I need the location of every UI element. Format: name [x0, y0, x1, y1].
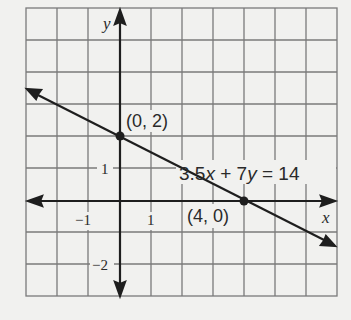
- y-tick-neg2: −2: [92, 257, 108, 273]
- y-axis-up-arrow-icon: [115, 10, 125, 24]
- y-axis-label: y: [101, 14, 111, 33]
- point-label-0-2: (0, 2): [126, 111, 168, 131]
- graph-canvas: y x 1 −1 1 −2 (0, 2) (4, 0) 3.5x + 7y = …: [0, 0, 351, 320]
- coordinate-graph: y x 1 −1 1 −2 (0, 2) (4, 0) 3.5x + 7y = …: [0, 0, 351, 320]
- y-axis-down-arrow-icon: [115, 282, 125, 296]
- x-axis-left-arrow-icon: [28, 196, 42, 206]
- point-4-0: [240, 197, 249, 206]
- point-label-4-0: (4, 0): [187, 206, 229, 226]
- grid: [26, 8, 337, 296]
- line-left-arrow-icon: [27, 89, 41, 99]
- line-right-arrow-icon: [321, 236, 335, 246]
- y-tick-1: 1: [101, 161, 109, 177]
- x-axis-right-arrow-icon: [321, 196, 335, 206]
- x-tick-neg1: −1: [75, 212, 91, 228]
- x-axis-label: x: [321, 208, 330, 227]
- x-tick-1: 1: [147, 212, 155, 228]
- equation-label: 3.5x + 7y = 14: [179, 163, 300, 184]
- point-0-2: [116, 132, 125, 141]
